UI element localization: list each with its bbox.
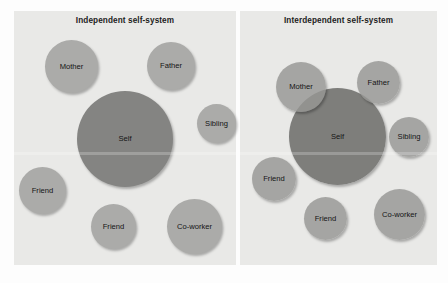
panel-title-independent: Independent self-system: [14, 16, 236, 25]
circle-label: Friend: [315, 215, 337, 223]
circle-independent-friend-4: Friend: [19, 167, 66, 214]
circle-independent-self-3: Self: [77, 91, 173, 187]
circle-label: Self: [118, 135, 131, 143]
circle-label: Co-worker: [177, 223, 212, 231]
circle-interdependent-friend-5: Friend: [304, 197, 347, 240]
self-system-figure: Independent self-system Interdependent s…: [0, 0, 448, 283]
circle-independent-sibling-2: Sibling: [197, 104, 236, 143]
circle-interdependent-father-2: Father: [357, 61, 400, 104]
circle-interdependent-mother-1: Mother: [276, 62, 326, 112]
circle-label: Self: [331, 133, 344, 141]
panel-title-interdependent: Interdependent self-system: [240, 16, 437, 25]
circle-interdependent-co-worker-6: Co-worker: [374, 189, 425, 240]
circle-label: Friend: [103, 223, 125, 231]
circle-label: Friend: [263, 175, 285, 183]
circle-interdependent-friend-4: Friend: [252, 157, 296, 201]
circle-independent-friend-5: Friend: [91, 204, 136, 249]
circle-label: Co-worker: [382, 211, 417, 219]
circle-label: Father: [160, 62, 182, 70]
circle-label: Friend: [32, 187, 54, 195]
circle-label: Mother: [289, 83, 313, 91]
circle-label: Sibling: [205, 120, 228, 128]
circle-independent-co-worker-6: Co-worker: [167, 199, 222, 254]
circle-independent-father-1: Father: [147, 42, 195, 90]
circle-interdependent-sibling-3: Sibling: [389, 117, 429, 157]
circle-label: Sibling: [398, 133, 421, 141]
circle-label: Father: [368, 79, 390, 87]
circle-label: Mother: [60, 63, 84, 71]
circle-independent-mother-0: Mother: [45, 40, 98, 93]
